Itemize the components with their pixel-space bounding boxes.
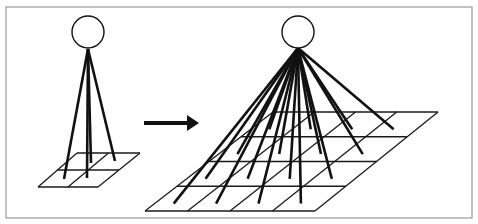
connection-line — [298, 48, 332, 179]
input-grid — [38, 153, 140, 187]
small-receptive-field-unit — [38, 16, 140, 187]
diagram-canvas — [0, 0, 478, 224]
connection-line — [206, 48, 298, 179]
connection-lines — [64, 49, 115, 179]
connection-line — [298, 48, 363, 154]
neuron-circle — [72, 16, 104, 48]
right-arrow-icon — [144, 115, 199, 131]
connection-line — [88, 49, 115, 161]
connection-line — [216, 48, 298, 204]
arrow-head — [187, 115, 199, 131]
connection-line — [64, 49, 88, 179]
connection-lines — [174, 48, 394, 204]
large-receptive-field-unit — [145, 16, 438, 211]
neuron-circle — [282, 16, 314, 48]
receptive-field-diagram — [0, 0, 478, 224]
